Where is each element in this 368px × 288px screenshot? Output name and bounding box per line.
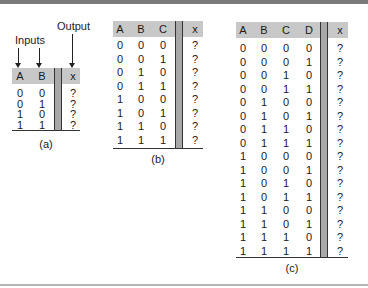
caption-b: (b) — [138, 153, 178, 165]
input-cell: 0 — [113, 39, 127, 52]
output-cell: ? — [333, 137, 347, 150]
header-x: x — [188, 21, 202, 37]
input-cell: 0 — [257, 150, 271, 163]
header-a: A — [113, 21, 127, 37]
io-divider — [54, 68, 62, 130]
input-b-arrow-icon — [39, 48, 40, 64]
output-cell: ? — [333, 191, 347, 204]
input-cell: 1 — [134, 80, 148, 93]
input-cell: 1 — [302, 137, 316, 150]
input-cell: 0 — [279, 42, 293, 55]
output-cell: ? — [188, 120, 202, 133]
input-cell: 1 — [279, 191, 293, 204]
input-cell: 0 — [302, 150, 316, 163]
output-cell: ? — [333, 96, 347, 109]
input-cell: 0 — [302, 123, 316, 136]
truth-table-a: A B x 00?01?10?11? (a) — [12, 68, 80, 148]
input-cell: 1 — [236, 245, 250, 258]
input-cell: 1 — [113, 134, 127, 147]
truth-table-b: A B C x 000?001?010?011?100?101?110?111?… — [113, 21, 203, 161]
input-cell: 1 — [113, 93, 127, 106]
header-x: x — [66, 68, 80, 84]
input-cell: 0 — [156, 66, 170, 79]
input-cell: 0 — [257, 69, 271, 82]
input-cell: 1 — [302, 191, 316, 204]
header-c: C — [156, 21, 170, 37]
input-cell: 1 — [257, 123, 271, 136]
output-cell: ? — [333, 218, 347, 231]
input-cell: 1 — [134, 134, 148, 147]
header-a: A — [13, 68, 27, 84]
input-cell: 1 — [236, 204, 250, 217]
input-cell: 1 — [302, 164, 316, 177]
output-cell: ? — [333, 150, 347, 163]
caption-a: (a) — [26, 138, 66, 150]
input-cell: 0 — [279, 204, 293, 217]
input-cell: 1 — [257, 96, 271, 109]
input-cell: 0 — [302, 96, 316, 109]
input-cell: 1 — [257, 218, 271, 231]
input-cell: 0 — [302, 231, 316, 244]
input-cell: 1 — [113, 107, 127, 120]
input-cell: 0 — [156, 120, 170, 133]
input-cell: 0 — [113, 80, 127, 93]
input-cell: 0 — [279, 164, 293, 177]
input-cell: 1 — [279, 177, 293, 190]
input-cell: 0 — [257, 42, 271, 55]
input-cell: 0 — [156, 93, 170, 106]
input-cell: 1 — [156, 80, 170, 93]
table-underline — [236, 257, 348, 258]
input-cell: 1 — [279, 69, 293, 82]
input-cell: 0 — [236, 42, 250, 55]
input-cell: 1 — [302, 110, 316, 123]
input-cell: 0 — [279, 56, 293, 69]
input-cell: 0 — [236, 56, 250, 69]
input-cell: 0 — [134, 39, 148, 52]
input-cell: 1 — [156, 53, 170, 66]
input-cell: 1 — [236, 231, 250, 244]
input-cell: 1 — [279, 231, 293, 244]
output-cell: ? — [333, 123, 347, 136]
output-cell: ? — [188, 93, 202, 106]
input-cell: 1 — [279, 83, 293, 96]
input-cell: 0 — [236, 110, 250, 123]
output-cell: ? — [333, 56, 347, 69]
input-cell: 1 — [257, 231, 271, 244]
output-cell: ? — [188, 134, 202, 147]
input-cell: 0 — [156, 39, 170, 52]
output-cell: ? — [188, 39, 202, 52]
input-cell: 0 — [236, 137, 250, 150]
header-b: B — [134, 21, 148, 37]
input-cell: 0 — [134, 93, 148, 106]
input-cell: 1 — [236, 164, 250, 177]
input-cell: 1 — [257, 110, 271, 123]
caption-c: (c) — [272, 262, 312, 274]
output-cell: ? — [188, 66, 202, 79]
input-cell: 0 — [236, 83, 250, 96]
input-cell: 0 — [257, 177, 271, 190]
input-cell: 1 — [257, 137, 271, 150]
output-arrow-icon — [72, 34, 73, 64]
input-cell: 1 — [134, 66, 148, 79]
output-cell: ? — [188, 53, 202, 66]
input-cell: 0 — [279, 150, 293, 163]
input-cell: 1 — [257, 245, 271, 258]
input-cell: 1 — [279, 123, 293, 136]
output-cell: ? — [333, 164, 347, 177]
input-cell: 1 — [113, 120, 127, 133]
table-underline — [12, 130, 80, 131]
input-cell: 1 — [236, 218, 250, 231]
output-cell: ? — [333, 69, 347, 82]
input-cell: 0 — [302, 69, 316, 82]
input-cell: 1 — [236, 177, 250, 190]
output-cell: ? — [188, 107, 202, 120]
input-cell: 0 — [134, 53, 148, 66]
input-cell: 0 — [236, 96, 250, 109]
output-cell: ? — [333, 83, 347, 96]
input-cell: 0 — [257, 164, 271, 177]
header-b: B — [35, 68, 49, 84]
inputs-label: Inputs — [15, 34, 45, 46]
input-cell: 1 — [302, 83, 316, 96]
input-cell: 1 — [279, 245, 293, 258]
output-cell: ? — [333, 231, 347, 244]
